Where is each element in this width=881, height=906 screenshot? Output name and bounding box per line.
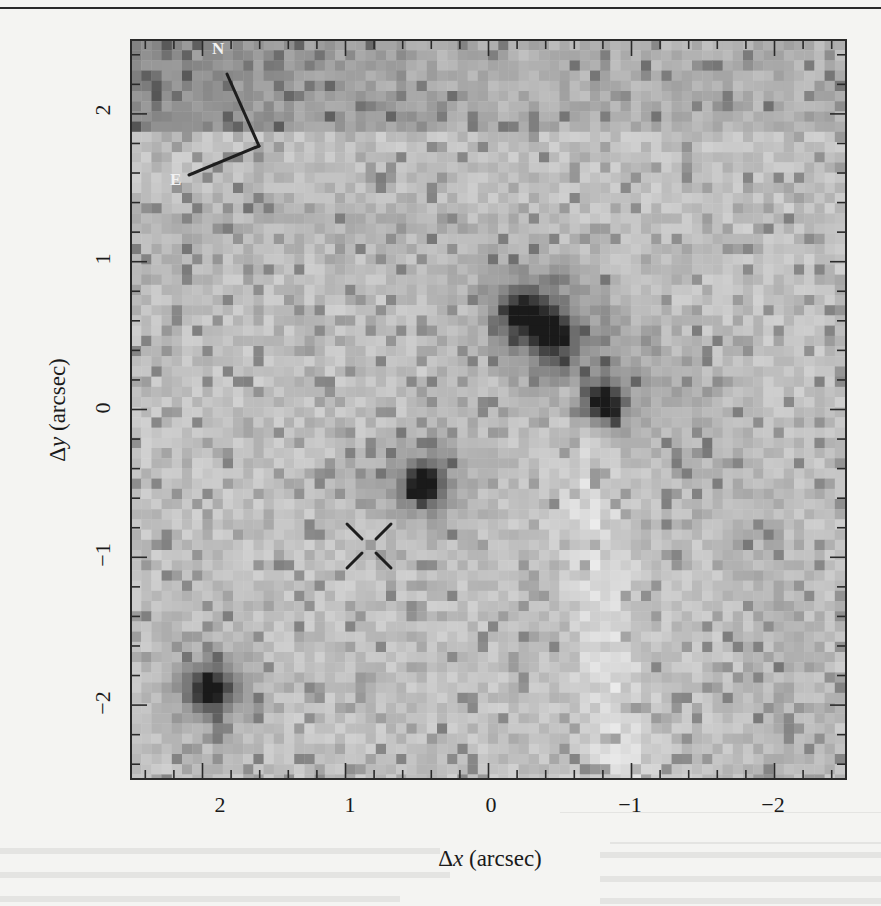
compass-east-label: E (170, 171, 181, 188)
x-axis-label: Δx (arcsec) (438, 846, 542, 872)
image-panel (0, 0, 881, 906)
y-tick-label: −1 (92, 543, 114, 566)
x-tick-label: −1 (618, 794, 641, 816)
compass-north-label: N (212, 40, 224, 57)
y-tick-label: 2 (92, 105, 114, 116)
x-tick-label: 2 (215, 794, 226, 816)
y-tick-label: −2 (92, 691, 114, 714)
figure: N E 2 1 0 −1 −2 2 1 0 −1 −2 Δx (arcsec) … (0, 0, 881, 906)
y-tick-label: 1 (92, 254, 114, 265)
pixel-map (131, 40, 856, 785)
x-tick-label: −2 (761, 794, 784, 816)
x-tick-label: 0 (486, 794, 497, 816)
x-tick-label: 1 (345, 794, 356, 816)
y-axis-label: Δy (arcsec) (45, 358, 71, 462)
y-tick-label: 0 (92, 403, 114, 414)
